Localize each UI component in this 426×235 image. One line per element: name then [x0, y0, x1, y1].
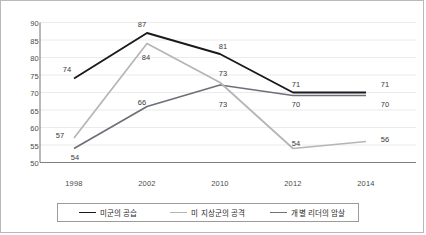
legend-item-airstrike[interactable]: 미군의 공습 — [58, 207, 158, 218]
data-label: 87 — [132, 20, 152, 29]
legend-item-ground-attack[interactable]: 미 지상군의 공격 — [158, 207, 258, 218]
data-label: 71 — [375, 80, 395, 89]
data-label: 54 — [65, 153, 85, 162]
legend-item-label: 미군의 공습 — [100, 207, 138, 218]
legend-swatch-icon — [79, 212, 96, 213]
data-label: 57 — [50, 131, 70, 140]
data-label: 81 — [213, 42, 233, 51]
data-label: 84 — [136, 53, 156, 62]
data-label: 70 — [375, 100, 395, 109]
data-label: 70 — [286, 100, 306, 109]
legend-item-label: 개별 리더의 암살 — [291, 207, 345, 218]
legend-item-label: 미 지상군의 공격 — [191, 207, 245, 218]
data-label: 71 — [286, 80, 306, 89]
chart-container: 90 85 80 75 70 65 60 55 50 1998 2002 201… — [0, 0, 424, 233]
legend-swatch-icon — [270, 212, 287, 213]
data-label: 56 — [375, 135, 395, 144]
data-label: 66 — [132, 98, 152, 107]
legend-item-assassination[interactable]: 개별 리더의 암살 — [258, 207, 358, 218]
gridlines — [40, 23, 416, 146]
data-label: 74 — [57, 65, 77, 74]
data-label: 73 — [213, 69, 233, 78]
plot-area — [1, 1, 425, 234]
series-line-assassination — [74, 85, 366, 149]
data-label: 54 — [286, 139, 306, 148]
data-label: 73 — [213, 100, 233, 109]
legend-swatch-icon — [170, 212, 187, 213]
chart-legend: 미군의 공습 미 지상군의 공격 개별 리더의 암살 — [57, 203, 359, 222]
